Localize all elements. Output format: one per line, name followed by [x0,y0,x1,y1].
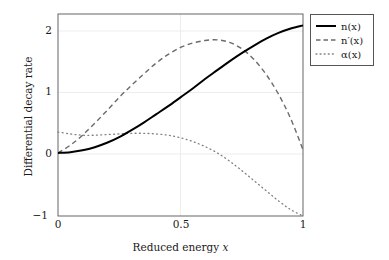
gridlines [58,14,303,216]
x-tick-label-1: 1 [286,218,320,230]
legend-swatch-dotted [315,48,337,60]
y-tick-label-2: 2 [26,24,52,36]
chart-figure: Differential decay rate Reduced energy x… [0,0,389,260]
x-tick-label-0: 0 [41,218,75,230]
legend-item-n: n(x) [315,19,369,33]
y-axis-label: Differential decay rate [17,37,36,197]
legend: n(x) n′(x) α(x) [310,14,374,66]
x-axis-label-prefix: Reduced energy [133,241,223,253]
x-axis-label: Reduced energy x [58,236,303,255]
y-tick-label-0: 0 [26,147,52,159]
legend-item-n-prime: n′(x) [315,33,369,47]
legend-label-alpha: α(x) [341,49,361,60]
x-axis-label-text: Reduced energy x [133,241,229,253]
legend-swatch-dashed [315,34,337,46]
y-tick-label-1: 1 [26,85,52,97]
x-tick-label-0.5: 0.5 [164,218,198,230]
legend-item-alpha: α(x) [315,47,369,61]
legend-label-n-prime: n′(x) [341,35,363,46]
legend-swatch-solid [315,20,337,32]
x-axis-label-variable: x [223,241,229,253]
legend-label-n: n(x) [341,21,361,32]
